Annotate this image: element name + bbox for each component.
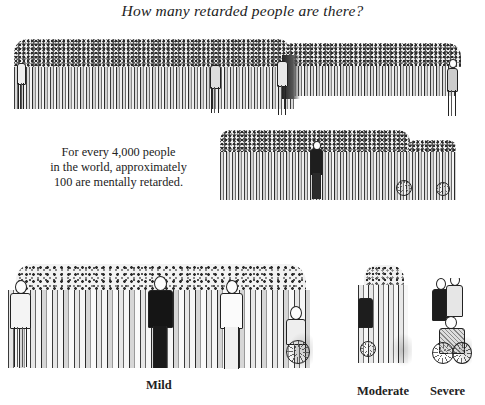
retarded-population-crowd-illustration [220, 128, 460, 203]
standing-person-figure [10, 280, 30, 368]
standing-person-in-light-shirt-figure [220, 280, 242, 370]
standing-person-figure [276, 47, 288, 117]
mild-label: Mild [146, 378, 172, 393]
crowd-bodies-texture [220, 152, 456, 200]
ground-shadow [390, 333, 412, 367]
statistic-caption: For every 4,000 people in the world, app… [36, 145, 201, 190]
wheelchair-wheel-icon [396, 180, 412, 196]
standing-person-figure [209, 53, 221, 115]
caption-line: 100 are mentally retarded. [36, 175, 201, 190]
crowd-bodies-texture [286, 66, 456, 96]
wheelchair-wheel-icon [360, 341, 376, 357]
caption-line: in the world, approximately [36, 160, 201, 175]
world-population-crowd-illustration [14, 37, 469, 117]
page-title: How many retarded people are there? [0, 2, 485, 20]
crowd-bodies-texture [14, 67, 294, 109]
moderate-label: Moderate [357, 384, 409, 399]
wheelchair-wheel-icon [432, 342, 454, 364]
severe-group-illustration [430, 278, 472, 370]
standing-person-figure [446, 59, 458, 117]
wheelchair-wheel-icon [436, 182, 450, 196]
ground-shadow [456, 336, 472, 366]
mild-group-illustration [8, 262, 313, 372]
crowd-heads-texture [14, 39, 289, 69]
moderate-group-illustration [356, 265, 412, 370]
crowd-heads-texture [364, 265, 404, 287]
person-in-dark-suit-figure [310, 141, 322, 201]
severe-label: Severe [430, 384, 465, 399]
caption-line: For every 4,000 people [36, 145, 201, 160]
person-in-black-suit-figure [148, 276, 172, 370]
crowd-heads-texture [286, 43, 461, 67]
ground-shadow [288, 332, 313, 368]
standing-person-figure [16, 51, 26, 111]
